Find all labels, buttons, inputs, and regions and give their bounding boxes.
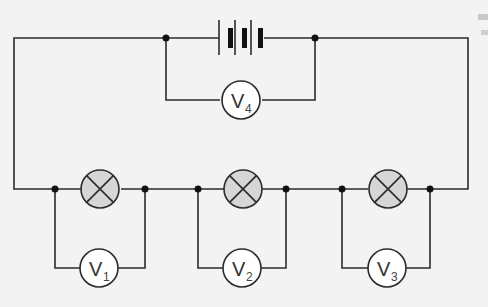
lamp-3-icon (369, 170, 407, 208)
lamp-1-icon (81, 170, 119, 208)
voltmeter-v2: V 2 (223, 249, 261, 287)
junction-node (427, 186, 434, 193)
voltmeter-symbol: V (89, 258, 103, 280)
voltmeter-v4: V 4 (222, 81, 260, 119)
voltmeter-symbol: V (231, 90, 245, 112)
cropped-glyph-fragment (481, 30, 488, 35)
junction-node (52, 186, 59, 193)
voltmeter-symbol: V (377, 258, 391, 280)
junction-node (283, 186, 290, 193)
junction-node (163, 35, 170, 42)
lamp-2-icon (224, 170, 262, 208)
voltmeter-subscript: 2 (246, 270, 253, 284)
junction-node (312, 35, 319, 42)
voltmeter-subscript: 1 (103, 270, 110, 284)
voltmeter-v1: V 1 (80, 249, 118, 287)
circuit-diagram: V 4 V 1 V 2 (0, 0, 488, 307)
junction-node (339, 186, 346, 193)
voltmeter-v3: V 3 (368, 249, 406, 287)
battery-icon (219, 20, 263, 55)
junction-node (142, 186, 149, 193)
junction-node (195, 186, 202, 193)
voltmeter-subscript: 3 (391, 270, 398, 284)
cropped-glyph-fragment (478, 14, 488, 20)
voltmeter-subscript: 4 (245, 102, 252, 116)
voltmeter-symbol: V (232, 258, 246, 280)
